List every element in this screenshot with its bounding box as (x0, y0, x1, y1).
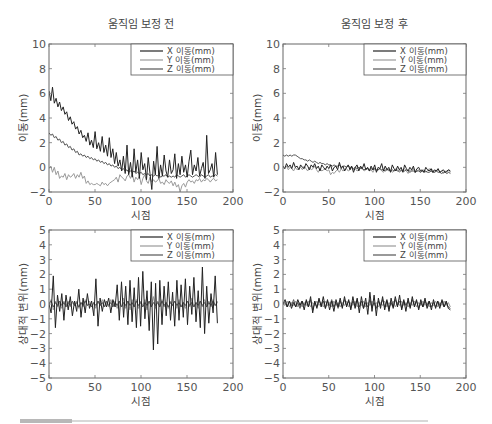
legend: X 이동(mm)Y 이동(mm)Z 이동(mm) (131, 230, 233, 261)
y-tick-label: 0 (39, 298, 46, 311)
chart-panel-br: 050100150200−5−4−3−2−1012345시점상대적 변위(mm)… (251, 224, 477, 407)
y-axis-label: 상대적 변위(mm) (17, 263, 29, 345)
x-tick-label: 150 (177, 195, 198, 208)
y-tick-label: 2 (273, 268, 280, 281)
legend: X 이동(mm)Y 이동(mm)Z 이동(mm) (364, 44, 466, 75)
x-tick-label: 50 (88, 195, 102, 208)
series-line-x (283, 292, 450, 316)
y-tick-label: −2 (264, 328, 280, 341)
x-axis-label: 시점 (365, 209, 385, 221)
x-tick-label: 0 (280, 195, 287, 208)
x-tick-label: 50 (322, 195, 336, 208)
y-tick-label: 3 (273, 254, 280, 267)
chart-title: 움직임 보정 전 (108, 18, 175, 31)
y-tick-label: 1 (273, 283, 280, 296)
legend-entry: Z 이동(mm) (400, 64, 448, 74)
legend: X 이동(mm)Y 이동(mm)Z 이동(mm) (364, 230, 466, 261)
x-tick-label: 100 (131, 195, 152, 208)
legend-entry: Z 이동(mm) (167, 250, 215, 260)
y-tick-label: −5 (264, 372, 280, 385)
x-tick-label: 0 (46, 381, 53, 394)
y-tick-label: −2 (30, 328, 46, 341)
x-tick-label: 200 (456, 195, 477, 208)
y-tick-label: 2 (39, 137, 46, 150)
y-tick-label: 6 (273, 87, 280, 100)
series-group (283, 155, 450, 175)
y-tick-label: 0 (273, 161, 280, 174)
x-tick-label: 0 (280, 381, 287, 394)
x-tick-label: 50 (322, 381, 336, 394)
y-tick-label: −1 (264, 313, 280, 326)
y-tick-label: −2 (264, 186, 280, 199)
figure-canvas: 움직임 보정 전050100150200−20246810시점이동(mm)X 이… (0, 0, 492, 424)
y-axis-label: 상대적 변위(mm) (251, 263, 263, 345)
y-tick-label: 5 (273, 224, 280, 237)
x-axis-label: 시점 (131, 209, 151, 221)
series-line-x (49, 267, 217, 350)
x-tick-label: 100 (131, 381, 152, 394)
x-tick-label: 0 (46, 195, 53, 208)
y-tick-label: −4 (264, 357, 280, 370)
x-tick-label: 200 (456, 381, 477, 394)
legend: X 이동(mm)Y 이동(mm)Z 이동(mm) (131, 44, 233, 75)
y-axis-label: 이동(mm) (17, 94, 29, 143)
y-tick-label: 2 (39, 268, 46, 281)
y-tick-label: 4 (273, 112, 280, 125)
series-group (49, 87, 217, 192)
x-tick-label: 200 (223, 381, 244, 394)
y-tick-label: 3 (39, 254, 46, 267)
legend-entry: Z 이동(mm) (400, 250, 448, 260)
footer-divider (20, 420, 428, 422)
y-tick-label: −3 (264, 342, 280, 355)
chart-panel-bl: 050100150200−5−4−3−2−1012345시점상대적 변위(mm)… (17, 224, 244, 407)
y-tick-label: 10 (266, 38, 280, 51)
legend-entry: Z 이동(mm) (167, 64, 215, 74)
y-tick-label: −1 (30, 313, 46, 326)
y-tick-label: 0 (273, 298, 280, 311)
y-tick-label: −4 (30, 357, 46, 370)
x-tick-label: 150 (410, 195, 431, 208)
x-axis-label: 시점 (131, 395, 151, 407)
y-tick-label: −2 (30, 186, 46, 199)
y-tick-label: 8 (273, 63, 280, 76)
y-tick-label: 4 (273, 239, 280, 252)
footer-accent-block (20, 419, 72, 423)
x-tick-label: 150 (177, 381, 198, 394)
y-tick-label: 0 (39, 161, 46, 174)
y-tick-label: 4 (39, 239, 46, 252)
series-group (49, 267, 217, 350)
chart-panel-tl: 움직임 보정 전050100150200−20246810시점이동(mm)X 이… (17, 18, 244, 221)
y-tick-label: 6 (39, 87, 46, 100)
x-tick-label: 50 (88, 381, 102, 394)
y-tick-label: 2 (273, 137, 280, 150)
x-tick-label: 200 (223, 195, 244, 208)
y-tick-label: −5 (30, 372, 46, 385)
y-tick-label: 8 (39, 63, 46, 76)
y-tick-label: 1 (39, 283, 46, 296)
x-axis-label: 시점 (365, 395, 385, 407)
chart-title: 움직임 보정 후 (341, 18, 408, 31)
x-tick-label: 100 (364, 195, 385, 208)
y-tick-label: 5 (39, 224, 46, 237)
y-tick-label: 4 (39, 112, 46, 125)
chart-panel-tr: 움직임 보정 후050100150200−20246810시점이동(mm)X 이… (251, 18, 477, 221)
x-tick-label: 150 (410, 381, 431, 394)
x-tick-label: 100 (364, 381, 385, 394)
series-group (283, 292, 450, 316)
y-tick-label: 10 (32, 38, 46, 51)
y-tick-label: −3 (30, 342, 46, 355)
y-axis-label: 이동(mm) (251, 94, 263, 143)
